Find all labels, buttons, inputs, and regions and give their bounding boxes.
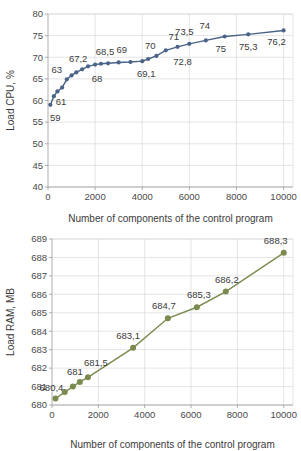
data-point — [99, 62, 103, 66]
data-point-label: 686,2 — [215, 274, 239, 285]
data-point-label: 681,5 — [84, 357, 108, 368]
data-point-label: 69 — [116, 44, 127, 55]
x-tick-label: 2000 — [88, 409, 109, 420]
y-tick-label: 686 — [31, 289, 47, 300]
x-tick-label: 8000 — [226, 191, 247, 202]
data-point — [85, 374, 91, 380]
data-point — [281, 28, 285, 32]
data-point-label: 74 — [200, 20, 211, 31]
ram-load-chart: 6806816826836846856866876886890200040006… — [0, 225, 301, 451]
y-tick-label: 80 — [32, 8, 43, 19]
data-point — [175, 45, 179, 49]
plot-area-ram: 6806816826836846856866876886890200040006… — [31, 233, 297, 420]
data-point-label: 684,7 — [152, 300, 176, 311]
data-point — [93, 63, 97, 67]
data-point — [246, 32, 250, 36]
data-point — [154, 54, 158, 58]
data-point-label: 67,2 — [69, 53, 88, 64]
y-tick-label: 687 — [31, 270, 47, 281]
data-point — [117, 60, 121, 64]
y-tick-label: 45 — [32, 160, 43, 171]
data-point — [77, 379, 83, 385]
y-tick-label: 689 — [31, 233, 47, 244]
y-tick-label: 682 — [31, 362, 47, 373]
data-point-label: 70 — [145, 40, 156, 51]
data-point — [80, 67, 84, 71]
data-point — [52, 396, 58, 402]
data-point — [86, 64, 90, 68]
data-point — [48, 103, 52, 107]
y-tick-label: 50 — [32, 138, 43, 149]
data-point-label: 73,5 — [175, 26, 194, 37]
data-point — [187, 42, 191, 46]
x-tick-label: 0 — [49, 409, 54, 420]
data-point — [146, 57, 150, 61]
data-point — [65, 77, 69, 81]
data-point — [164, 48, 168, 52]
data-point-label: 69,1 — [137, 68, 156, 79]
x-axis-title: Number of components of the control prog… — [70, 439, 275, 450]
data-point — [74, 70, 78, 74]
y-tick-label: 684 — [31, 326, 47, 337]
data-point-label: 681 — [67, 366, 83, 377]
y-tick-label: 40 — [32, 181, 43, 192]
data-point-label: 685,3 — [187, 289, 211, 300]
y-tick-label: 683 — [31, 344, 47, 355]
data-point-label: 59 — [50, 112, 61, 123]
y-axis-title: Load RAM, MB — [5, 288, 16, 356]
y-tick-label: 688 — [31, 252, 47, 263]
chart-svg-ram: 6806816826836846856866876886890200040006… — [0, 225, 301, 451]
data-point — [223, 289, 229, 295]
data-point — [194, 304, 200, 310]
x-tick-label: 4000 — [134, 409, 155, 420]
x-tick-label: 6000 — [180, 409, 201, 420]
data-point — [130, 345, 136, 351]
data-point — [140, 59, 144, 63]
x-tick-label: 10000 — [270, 191, 296, 202]
x-tick-label: 4000 — [132, 191, 153, 202]
x-axis-title: Number of components of the control prog… — [68, 213, 273, 224]
data-point — [165, 315, 171, 321]
data-point-label: 688,3 — [264, 235, 288, 246]
data-point — [60, 85, 64, 89]
y-tick-label: 70 — [32, 52, 43, 63]
data-point-label: 68,5 — [96, 46, 115, 57]
data-point — [281, 250, 287, 256]
data-point — [55, 89, 59, 93]
plot-area-cpu: 4045505560657075800200040006000800010000… — [32, 8, 296, 202]
data-point-label: 680,4 — [40, 382, 64, 393]
x-tick-label: 10000 — [271, 409, 297, 420]
data-point-label: 72,8 — [173, 56, 192, 67]
data-point-label: 76,2 — [267, 36, 286, 47]
x-tick-label: 8000 — [227, 409, 248, 420]
data-point — [106, 61, 110, 65]
x-tick-label: 6000 — [179, 191, 200, 202]
y-tick-label: 75 — [32, 30, 43, 41]
data-point-label: 63 — [52, 64, 63, 75]
y-tick-label: 60 — [32, 95, 43, 106]
data-point — [204, 38, 208, 42]
y-axis-title: Load CPU, % — [5, 70, 16, 131]
data-point-label: 61 — [56, 96, 67, 107]
data-point — [223, 34, 227, 38]
y-tick-label: 685 — [31, 307, 47, 318]
y-tick-label: 65 — [32, 73, 43, 84]
x-tick-label: 0 — [45, 191, 50, 202]
data-point — [128, 60, 132, 64]
data-point-label: 683,1 — [116, 330, 140, 341]
y-tick-label: 55 — [32, 116, 43, 127]
chart-svg-cpu: 4045505560657075800200040006000800010000… — [0, 0, 301, 225]
data-point — [70, 384, 76, 390]
data-point-label: 75 — [215, 43, 226, 54]
x-tick-label: 2000 — [85, 191, 106, 202]
data-point — [69, 73, 73, 77]
data-point-label: 68 — [92, 73, 103, 84]
cpu-load-chart: 4045505560657075800200040006000800010000… — [0, 0, 301, 225]
data-point-label: 75,3 — [239, 41, 258, 52]
y-tick-label: 680 — [31, 399, 47, 410]
